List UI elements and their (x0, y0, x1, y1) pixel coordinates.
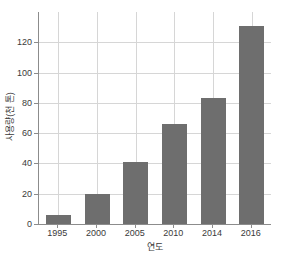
x-axis-tick-label: 2010 (163, 228, 183, 238)
y-axis-tick-label: 20 (0, 189, 32, 199)
x-axis-tick-mark (135, 224, 136, 228)
y-axis-tick-label: 120 (0, 37, 32, 47)
y-axis-tick-label: 100 (0, 68, 32, 78)
x-axis-tick-label: 2000 (86, 228, 106, 238)
bar-2000 (85, 194, 110, 224)
x-axis-tick-label: 2014 (202, 228, 222, 238)
bars-layer (39, 12, 271, 224)
x-axis-tick-mark (212, 224, 213, 228)
y-axis-tick-label: 0 (0, 219, 32, 229)
x-axis-tick-mark (57, 224, 58, 228)
plot-area (38, 12, 271, 225)
x-axis-tick-mark (96, 224, 97, 228)
x-axis-tick-label: 2005 (125, 228, 145, 238)
bar-chart-figure: 사용량(천 톤) 020406080100120 199520002005201… (0, 0, 281, 253)
y-axis-tick-label: 40 (0, 158, 32, 168)
x-axis-tick-label: 2016 (241, 228, 261, 238)
bar-1995 (46, 215, 71, 224)
y-axis-tick-group: 020406080100120 (0, 12, 38, 225)
x-axis-title: 연도 (38, 240, 271, 253)
x-axis-tick-label: 1995 (47, 228, 67, 238)
bar-2014 (201, 98, 226, 224)
bar-2016 (239, 26, 264, 224)
x-axis-tick-mark (251, 224, 252, 228)
bar-2010 (162, 124, 187, 224)
y-axis-tick-label: 60 (0, 128, 32, 138)
x-axis-tick-mark (173, 224, 174, 228)
bar-2005 (123, 162, 148, 224)
y-axis-tick-label: 80 (0, 98, 32, 108)
